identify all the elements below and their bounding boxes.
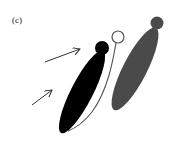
arrow-top [45, 49, 80, 62]
open-circle [112, 31, 124, 43]
gray-head [151, 17, 164, 30]
diagram-canvas [0, 0, 180, 143]
arrow-bottom [32, 90, 52, 105]
black-head [95, 41, 109, 55]
figure-panel: (c) [0, 0, 180, 143]
